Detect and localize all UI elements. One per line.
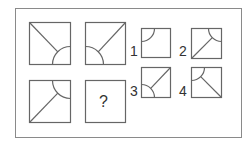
option-3-label[interactable]: 3 [130,84,138,98]
matrix-cell-3 [30,81,71,123]
option-2-figure[interactable] [192,29,222,59]
puzzle-canvas [0,0,250,144]
missing-figure-question-mark: ? [99,94,108,110]
option-1-figure[interactable] [142,29,171,58]
option-3-figure[interactable] [142,68,171,98]
matrix-cell-2 [86,23,126,65]
option-4-figure[interactable] [192,68,222,98]
option-1-label[interactable]: 1 [130,44,138,58]
matrix-cell-1 [30,23,71,65]
option-2-label[interactable]: 2 [179,44,187,58]
option-4-label[interactable]: 4 [179,84,187,98]
